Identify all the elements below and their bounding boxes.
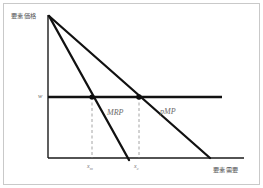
point-competitive-equilibrium	[136, 94, 142, 100]
factor-demand-chart: 要素価格 要素需要 w MRP pMP xm xc	[0, 0, 263, 188]
point-monopsony-equilibrium	[89, 94, 94, 99]
chart-canvas	[0, 0, 263, 188]
